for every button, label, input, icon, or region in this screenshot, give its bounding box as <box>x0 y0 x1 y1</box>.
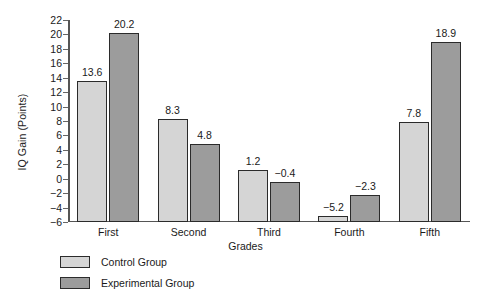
y-tick-label: −6 <box>50 217 62 227</box>
y-tick-label: −2 <box>50 188 62 198</box>
legend-label-control: Control Group <box>101 256 167 268</box>
x-tick-label: First <box>68 226 148 238</box>
y-tick-label: 6 <box>56 130 62 140</box>
bar-control <box>77 81 107 222</box>
bar-experimental <box>109 33 139 222</box>
bar-value-label: 13.6 <box>70 67 114 78</box>
y-tick-label: 12 <box>50 87 62 97</box>
bar-value-label: −0.4 <box>263 168 307 179</box>
y-axis-tick-labels: 2220181614121086420−2−4−6 <box>0 20 62 222</box>
y-tick-label: 20 <box>50 29 62 39</box>
plot-area: 13.620.28.34.81.2−0.4−5.2−2.37.818.9 <box>68 20 470 222</box>
bar-value-label: 18.9 <box>424 28 468 39</box>
x-tick-label: Third <box>229 226 309 238</box>
bar-control <box>399 122 429 222</box>
bar-chart: IQ Gain (Points) 2220181614121086420−2−4… <box>0 0 491 299</box>
bar-group: 7.818.9 <box>390 20 470 222</box>
bar-value-label: −2.3 <box>343 181 387 192</box>
x-axis-title: Grades <box>0 240 491 252</box>
y-tick-label: 14 <box>50 73 62 83</box>
y-tick-label: 8 <box>56 116 62 126</box>
legend-label-experimental: Experimental Group <box>101 277 194 289</box>
bar-value-label: −5.2 <box>311 202 355 213</box>
x-tick-label: Fourth <box>309 226 389 238</box>
x-tick-label: Second <box>148 226 228 238</box>
y-tick-label: 2 <box>56 159 62 169</box>
legend-swatch-experimental <box>60 277 90 289</box>
y-tick-label: 22 <box>50 15 62 25</box>
chart-legend: Control Group Experimental Group <box>60 253 194 295</box>
bar-value-label: 7.8 <box>392 108 436 119</box>
y-tick-label: 4 <box>56 145 62 155</box>
y-tick-label: 16 <box>50 58 62 68</box>
bar-experimental <box>431 42 461 222</box>
y-tick-label: 18 <box>50 44 62 54</box>
bar-value-label: 1.2 <box>231 156 275 167</box>
legend-swatch-control <box>60 256 90 268</box>
bar-control <box>318 216 348 222</box>
bar-value-label: 8.3 <box>151 105 195 116</box>
y-tick-label: −4 <box>50 203 62 213</box>
bar-group: 1.2−0.4 <box>229 20 309 222</box>
bar-experimental <box>350 195 380 222</box>
bar-value-label: 20.2 <box>102 19 146 30</box>
bar-group: 8.34.8 <box>148 20 228 222</box>
bar-value-label: 4.8 <box>183 130 227 141</box>
x-tick-label: Fifth <box>390 226 470 238</box>
legend-item-control: Control Group <box>60 253 194 270</box>
bar-group: −5.2−2.3 <box>309 20 389 222</box>
bar-groups: 13.620.28.34.81.2−0.4−5.2−2.37.818.9 <box>68 20 470 222</box>
y-tick-label: 10 <box>50 102 62 112</box>
bar-experimental <box>190 144 220 222</box>
y-tick-label: 0 <box>56 174 62 184</box>
bar-experimental <box>270 182 300 222</box>
legend-item-experimental: Experimental Group <box>60 274 194 291</box>
bar-group: 13.620.2 <box>68 20 148 222</box>
y-tick <box>63 222 68 223</box>
